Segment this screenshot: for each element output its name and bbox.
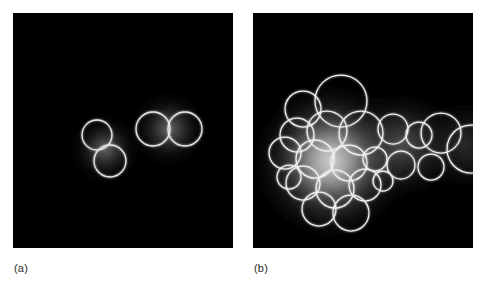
panel-b-image	[253, 13, 473, 248]
panel-a-canvas	[13, 13, 233, 248]
panel-label-a: (a)	[14, 263, 28, 274]
panel-a-image	[13, 13, 233, 248]
emission-glow	[65, 109, 145, 189]
panel-label-b: (b)	[254, 263, 268, 274]
panel-b-canvas	[253, 13, 473, 248]
figure-container: (a) (b)	[0, 0, 492, 287]
